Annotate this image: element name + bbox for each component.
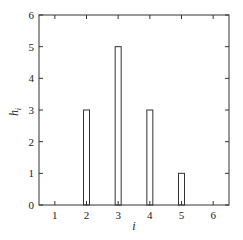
y-tick-label: 5 bbox=[29, 41, 35, 53]
svg-text:hi: hi bbox=[7, 108, 23, 116]
y-tick-label: 4 bbox=[29, 72, 35, 84]
bar-4 bbox=[147, 110, 153, 205]
x-axis-label: i bbox=[132, 219, 135, 233]
y-tick-label: 1 bbox=[29, 167, 35, 179]
x-tick-label: 6 bbox=[210, 209, 216, 221]
y-tick-label: 0 bbox=[29, 199, 35, 211]
y-tick-label: 6 bbox=[29, 9, 35, 21]
x-axis-ticks: 123456 bbox=[52, 15, 216, 221]
plot-frame bbox=[39, 15, 229, 205]
bar-chart: 0123456 123456 i hi bbox=[0, 0, 243, 240]
y-axis-label-subscript: i bbox=[14, 108, 23, 110]
y-axis-label: hi bbox=[7, 108, 23, 116]
x-tick-label: 1 bbox=[52, 209, 58, 221]
x-tick-label: 2 bbox=[84, 209, 90, 221]
y-tick-label: 2 bbox=[29, 136, 35, 148]
bar-5 bbox=[179, 173, 185, 205]
y-axis-ticks: 0123456 bbox=[29, 9, 230, 211]
x-tick-label: 4 bbox=[147, 209, 153, 221]
bar-3 bbox=[115, 47, 121, 205]
x-tick-label: 5 bbox=[179, 209, 185, 221]
y-tick-label: 3 bbox=[29, 104, 35, 116]
x-tick-label: 3 bbox=[115, 209, 121, 221]
bar-2 bbox=[84, 110, 90, 205]
bars-group bbox=[84, 47, 185, 205]
